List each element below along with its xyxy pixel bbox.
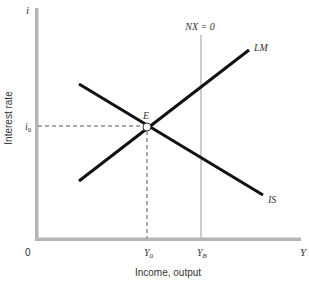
is-label: IS — [267, 194, 276, 205]
x-axis — [35, 238, 301, 242]
y0-tick-label: Y0 — [144, 247, 154, 260]
yb-tick-label: YB — [197, 247, 208, 260]
y-axis — [35, 8, 39, 241]
x-axis-symbol: Y — [300, 246, 308, 258]
is-curve — [79, 84, 263, 195]
is-lm-diagram: i Y 0 Interest rate Income, output NX = … — [0, 0, 309, 282]
nx-zero-label: NX = 0 — [184, 21, 215, 32]
origin-label: 0 — [25, 247, 31, 258]
i0-tick-label: i0 — [25, 121, 32, 134]
lm-curve — [79, 50, 249, 181]
y-axis-symbol: i — [26, 4, 29, 16]
equilibrium-point — [143, 123, 151, 131]
lm-label: LM — [253, 42, 269, 53]
equilibrium-label: E — [142, 110, 149, 121]
y-axis-title: Interest rate — [3, 91, 14, 145]
x-axis-title: Income, output — [135, 267, 201, 278]
